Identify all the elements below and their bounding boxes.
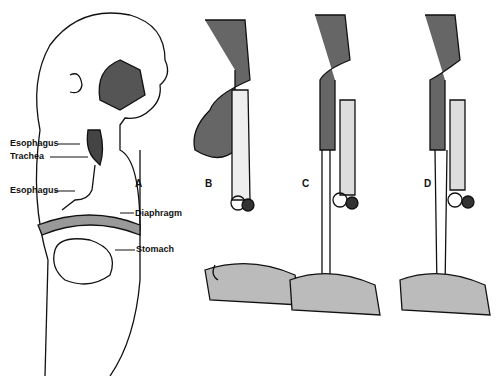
panel-label-a: A — [135, 178, 142, 189]
panel-c — [290, 15, 380, 315]
panel-b — [194, 20, 300, 305]
label-stomach: Stomach — [136, 244, 174, 254]
leader-lines — [50, 144, 135, 250]
label-esophagus-upper: Esophagus — [10, 138, 59, 148]
panel-label-b: B — [205, 178, 212, 189]
label-trachea: Trachea — [10, 151, 44, 161]
label-diaphragm: Diaphragm — [135, 208, 182, 218]
panel-label-c: C — [302, 178, 309, 189]
diagram: Esophagus Trachea Esophagus Diaphragm St… — [0, 0, 504, 376]
label-esophagus-lower: Esophagus — [10, 185, 59, 195]
panel-d — [400, 15, 490, 315]
panel-label-d: D — [424, 178, 431, 189]
